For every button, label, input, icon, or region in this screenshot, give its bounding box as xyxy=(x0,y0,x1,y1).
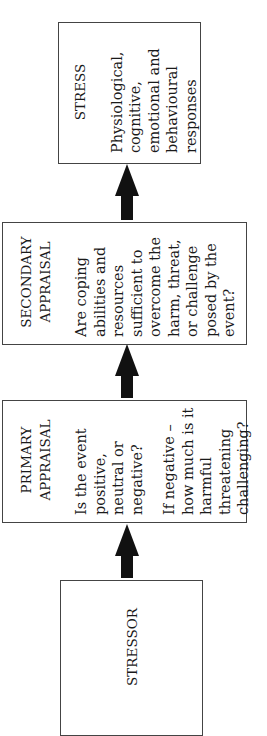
secondary-heading: SECONDARY APPRAISAL xyxy=(17,227,54,337)
stressor-heading: STRESSOR xyxy=(123,608,142,686)
primary-question-1: Is the event positive, neutral or negati… xyxy=(72,405,146,515)
primary-question-2: If negative – how much is it harmful thr… xyxy=(160,405,253,515)
secondary-question: Are coping abilities and resources suffi… xyxy=(72,227,239,337)
stress-body: Physiological, cognitive, emotional and … xyxy=(108,31,201,153)
stressor-box: STRESSOR xyxy=(60,580,203,736)
arrow-right-icon xyxy=(114,164,140,220)
primary-body: Is the event positive, neutral or negati… xyxy=(72,405,253,515)
stress-heading: STRESS xyxy=(71,31,90,153)
stress-box: STRESS Physiological, cognitive, emotion… xyxy=(58,22,201,164)
primary-heading: PRIMARY APPRAISAL xyxy=(17,405,54,515)
arrow-right-icon xyxy=(114,524,140,578)
primary-appraisal-box: PRIMARY APPRAISAL Is the event positive,… xyxy=(2,400,247,523)
secondary-appraisal-box: SECONDARY APPRAISAL Are coping abilities… xyxy=(2,222,247,345)
secondary-body: Are coping abilities and resources suffi… xyxy=(72,227,239,337)
arrow-right-icon xyxy=(114,344,140,398)
stress-responses: Physiological, cognitive, emotional and … xyxy=(108,31,201,153)
